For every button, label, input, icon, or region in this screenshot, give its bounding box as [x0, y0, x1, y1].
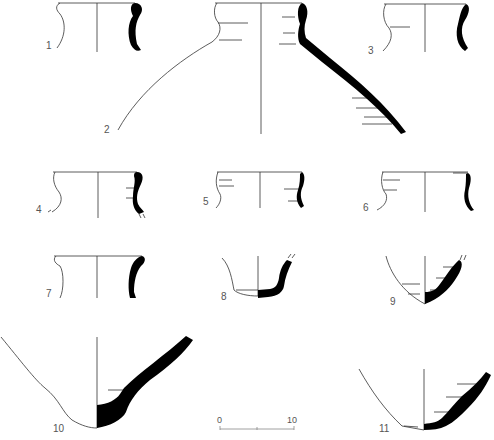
vessel-11-section	[424, 372, 491, 430]
vessel-label-9: 9	[390, 297, 396, 307]
vessel-1-profile	[57, 3, 135, 52]
vessel-3-profile	[383, 4, 466, 52]
scale-label-end: 10	[287, 416, 297, 425]
vessel-6-profile	[377, 172, 468, 212]
vessel-1-section	[129, 3, 143, 51]
vessel-6-section	[464, 173, 474, 211]
vessel-label-10: 10	[53, 424, 64, 434]
vessel-label-5: 5	[203, 197, 209, 207]
vessel-7-profile	[54, 256, 142, 298]
vessel-5-section	[297, 172, 305, 208]
scale-bar	[220, 426, 294, 430]
vessel-label-4: 4	[36, 205, 42, 215]
vessel-10-section	[97, 336, 193, 428]
vessel-label-11: 11	[379, 424, 389, 434]
vessel-8-section	[258, 260, 292, 298]
vessel-2-profile	[118, 3, 392, 134]
vessel-label-3: 3	[368, 46, 374, 56]
vessel-2-section	[298, 3, 406, 134]
vessel-4-section	[133, 172, 144, 214]
vessel-label-2: 2	[104, 125, 110, 135]
scale-label-start: 0	[217, 416, 222, 425]
vessel-label-7: 7	[46, 289, 52, 299]
pottery-plate: 1 2 3 4 5 6 7 8 9 10 11 0 10	[0, 0, 494, 440]
vessel-label-6: 6	[363, 203, 369, 213]
profiles-drawing	[0, 0, 494, 440]
vessel-label-8: 8	[221, 292, 227, 302]
vessel-7-section	[129, 256, 145, 298]
vessel-4-profile	[48, 172, 145, 218]
vessel-5-profile	[216, 172, 302, 208]
vessel-label-1: 1	[46, 41, 52, 51]
vessel-3-section	[457, 4, 469, 51]
